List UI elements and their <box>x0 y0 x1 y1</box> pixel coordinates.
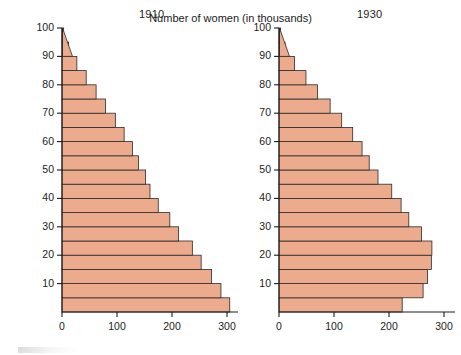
bar-1930-age-10-15 <box>279 269 428 283</box>
bar-1910-age-55-60 <box>62 142 132 156</box>
x-tick-label: 300 <box>424 320 461 332</box>
y-tick-label: 20 <box>237 248 271 260</box>
y-tick-label: 10 <box>20 277 54 289</box>
bar-1930-age-55-60 <box>279 142 362 156</box>
bar-1930-age-65-70 <box>279 113 342 127</box>
bar-1930-age-70-75 <box>279 99 330 113</box>
bar-1930-age-25-30 <box>279 227 421 241</box>
x-tick-label: 100 <box>97 320 137 332</box>
bar-1910-age-25-30 <box>62 227 179 241</box>
bar-1910-age-5-10 <box>62 284 221 298</box>
bar-1930-age-20-25 <box>279 241 432 255</box>
bar-1930-age-75-80 <box>279 85 318 99</box>
x-tick-label: 200 <box>369 320 409 332</box>
bar-1930-age-40-45 <box>279 184 392 198</box>
y-tick-label: 90 <box>237 49 271 61</box>
y-tick-label: 80 <box>237 78 271 90</box>
x-tick-label: 0 <box>42 320 82 332</box>
bar-1910-age-85-90 <box>62 56 77 70</box>
x-tick-label: 0 <box>259 320 299 332</box>
y-tick-label: 60 <box>237 135 271 147</box>
bar-1930-age-15-20 <box>279 255 431 269</box>
y-tick-label: 100 <box>237 21 271 33</box>
y-tick-label: 90 <box>20 49 54 61</box>
y-tick-label: 70 <box>20 106 54 118</box>
bar-1910-age-15-20 <box>62 255 201 269</box>
bar-1910-age-50-55 <box>62 156 138 170</box>
bar-1930-age-50-55 <box>279 156 369 170</box>
x-tick-label: 200 <box>152 320 192 332</box>
bar-1910-age-0-5 <box>62 298 230 312</box>
y-tick-label: 70 <box>237 106 271 118</box>
y-tick-label: 40 <box>237 191 271 203</box>
y-tick-label: 40 <box>20 191 54 203</box>
population-pyramid-figure: 1910 1930 Age Number of women (in thousa… <box>0 0 461 355</box>
bar-1910-age-70-75 <box>62 99 105 113</box>
pyramid-apex-1910 <box>63 28 73 56</box>
bar-1930-age-5-10 <box>279 284 423 298</box>
y-tick-label: 50 <box>20 163 54 175</box>
bar-1910-age-45-50 <box>62 170 146 184</box>
panel-1930 <box>274 28 455 317</box>
bar-1930-age-35-40 <box>279 198 401 212</box>
bar-1910-age-10-15 <box>62 269 212 283</box>
bar-1930-age-0-5 <box>279 298 402 312</box>
y-tick-label: 30 <box>237 220 271 232</box>
y-tick-label: 20 <box>20 248 54 260</box>
bar-1930-age-85-90 <box>279 56 294 70</box>
bar-1910-age-20-25 <box>62 241 192 255</box>
bar-1930-age-60-65 <box>279 127 353 141</box>
bar-1910-age-35-40 <box>62 198 158 212</box>
x-tick-label: 100 <box>314 320 354 332</box>
panel-1910 <box>57 28 238 317</box>
y-tick-label: 10 <box>237 277 271 289</box>
bar-1930-age-30-35 <box>279 213 409 227</box>
y-tick-label: 100 <box>20 21 54 33</box>
y-tick-label: 30 <box>20 220 54 232</box>
bar-1910-age-65-70 <box>62 113 115 127</box>
bar-1910-age-80-85 <box>62 71 86 85</box>
bar-1910-age-30-35 <box>62 213 170 227</box>
bar-1930-age-80-85 <box>279 71 306 85</box>
x-tick-label: 300 <box>207 320 247 332</box>
pyramid-apex-1930 <box>280 28 290 56</box>
bar-1910-age-75-80 <box>62 85 96 99</box>
bar-1930-age-45-50 <box>279 170 378 184</box>
bar-1910-age-40-45 <box>62 184 150 198</box>
y-tick-label: 50 <box>237 163 271 175</box>
y-tick-label: 60 <box>20 135 54 147</box>
page-edge-artifact <box>18 347 78 353</box>
plot-area <box>0 0 461 355</box>
y-tick-label: 80 <box>20 78 54 90</box>
bar-1910-age-60-65 <box>62 127 124 141</box>
